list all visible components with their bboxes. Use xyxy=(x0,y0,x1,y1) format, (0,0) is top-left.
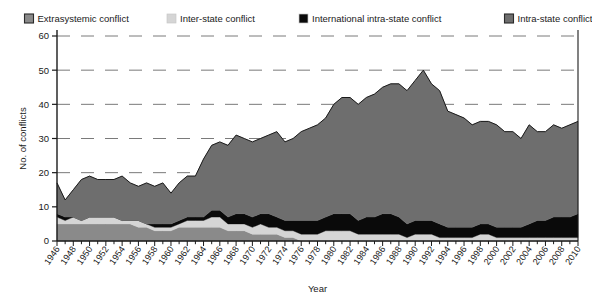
x-tick-label: 1972 xyxy=(254,244,274,266)
chart-svg: Extrasystemic conflictInter-state confli… xyxy=(0,0,592,300)
legend-item: Intra-state conflict xyxy=(505,13,592,24)
x-tick-label: 1954 xyxy=(107,244,127,266)
x-tick-label: 1960 xyxy=(156,244,176,266)
x-tick-label: 2008 xyxy=(547,244,567,266)
x-axis-title: Year xyxy=(308,283,327,294)
x-tick-label: 1952 xyxy=(91,244,111,266)
legend-label: Inter-state conflict xyxy=(180,13,255,24)
stacked-areas xyxy=(57,70,578,241)
chart-legend: Extrasystemic conflictInter-state confli… xyxy=(25,13,592,24)
conflicts-chart: Extrasystemic conflictInter-state confli… xyxy=(0,0,592,300)
x-tick-label: 1988 xyxy=(384,244,404,266)
legend-item: International intra-state conflict xyxy=(299,13,442,24)
x-tick-label: 2004 xyxy=(514,244,534,266)
x-tick-label: 2002 xyxy=(498,244,518,266)
legend-swatch xyxy=(299,14,308,23)
x-tick-label: 1946 xyxy=(42,244,62,266)
y-tick-label: 50 xyxy=(38,65,49,76)
y-tick-label: 10 xyxy=(38,201,49,212)
y-tick-label: 0 xyxy=(44,235,49,246)
y-tick-label: 30 xyxy=(38,133,49,144)
x-tick-label: 1980 xyxy=(319,244,339,266)
x-tick-label: 1978 xyxy=(303,244,323,266)
y-axis-title: No. of conflicts xyxy=(17,107,28,170)
x-tick-label: 1996 xyxy=(449,244,469,266)
x-tick-label: 1998 xyxy=(465,244,485,266)
x-tick-label: 1992 xyxy=(417,244,437,266)
legend-label: Extrasystemic conflict xyxy=(38,13,130,24)
x-tick-label: 1990 xyxy=(400,244,420,266)
y-tick-label: 60 xyxy=(38,30,49,41)
x-tick-label: 1950 xyxy=(75,244,95,266)
area-series xyxy=(57,70,578,227)
legend-item: Extrasystemic conflict xyxy=(25,13,130,24)
y-tick-label: 20 xyxy=(38,167,49,178)
legend-label: International intra-state conflict xyxy=(312,13,442,24)
x-tick-label: 1968 xyxy=(221,244,241,266)
x-tick-label: 1956 xyxy=(124,244,144,266)
legend-item: Inter-state conflict xyxy=(167,13,255,24)
legend-swatch xyxy=(505,14,514,23)
legend-swatch xyxy=(25,14,34,23)
x-tick-label: 1976 xyxy=(286,244,306,266)
x-tick-label: 1966 xyxy=(205,244,225,266)
y-tick-label: 40 xyxy=(38,99,49,110)
x-tick-label: 2010 xyxy=(563,244,583,266)
x-tick-label: 1982 xyxy=(335,244,355,266)
x-tick-label: 2000 xyxy=(482,244,502,266)
x-tick-label: 1962 xyxy=(172,244,192,266)
x-tick-label: 1970 xyxy=(238,244,258,266)
x-tick-label: 1948 xyxy=(58,244,78,266)
legend-label: Intra-state conflict xyxy=(518,13,592,24)
legend-swatch xyxy=(167,14,176,23)
x-tick-label: 2006 xyxy=(531,244,551,266)
x-tick-label: 1974 xyxy=(270,244,290,266)
x-tick-label: 1994 xyxy=(433,244,453,266)
x-tick-label: 1958 xyxy=(140,244,160,266)
x-tick-label: 1964 xyxy=(189,244,209,266)
x-tick-label: 1986 xyxy=(368,244,388,266)
x-tick-label: 1984 xyxy=(352,244,372,266)
